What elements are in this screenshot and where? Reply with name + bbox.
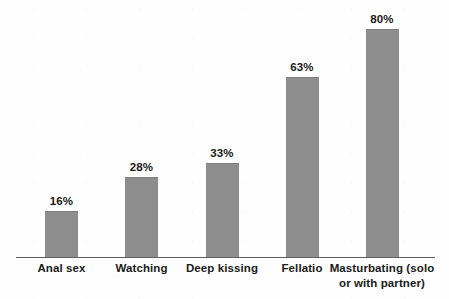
bar-group[interactable]: 28%	[125, 0, 158, 257]
bar-group[interactable]: 16%	[45, 0, 78, 257]
bar-group[interactable]: 80%	[366, 0, 399, 257]
category-axis: Anal sex Watching Deep kissing Fellatio …	[0, 261, 449, 299]
category-label: Fellatio	[281, 261, 322, 276]
bar-value-label: 28%	[130, 161, 153, 173]
category-label-line: Anal sex	[37, 262, 85, 274]
category-label-line: Fellatio	[281, 262, 322, 274]
category-label-line: Deep kissing	[186, 262, 258, 274]
bar-rect[interactable]	[366, 29, 399, 257]
bar-rect[interactable]	[286, 77, 319, 257]
bar-value-label: 16%	[50, 195, 73, 207]
bar-group[interactable]: 33%	[206, 0, 239, 257]
category-label: Masturbating (solo or with partner)	[330, 261, 435, 290]
category-label: Watching	[115, 261, 167, 276]
bar-value-label: 80%	[370, 13, 393, 25]
category-label: Deep kissing	[186, 261, 258, 276]
bar-value-label: 33%	[210, 147, 233, 159]
category-label-line: Watching	[115, 262, 167, 274]
bar-rect[interactable]	[206, 163, 239, 257]
x-axis-line	[16, 257, 435, 258]
bar-group[interactable]: 63%	[286, 0, 319, 257]
bar-value-label: 63%	[290, 61, 313, 73]
category-label: Anal sex	[37, 261, 85, 276]
category-label-line: or with partner)	[330, 276, 435, 291]
bar-chart-figure: 16% 28% 33% 63% 80% Anal sex Watching	[0, 0, 449, 299]
plot-area: 16% 28% 33% 63% 80%	[0, 0, 449, 257]
bar-rect[interactable]	[125, 177, 158, 257]
bar-rect[interactable]	[45, 211, 78, 257]
category-label-line: Masturbating (solo	[330, 262, 435, 274]
